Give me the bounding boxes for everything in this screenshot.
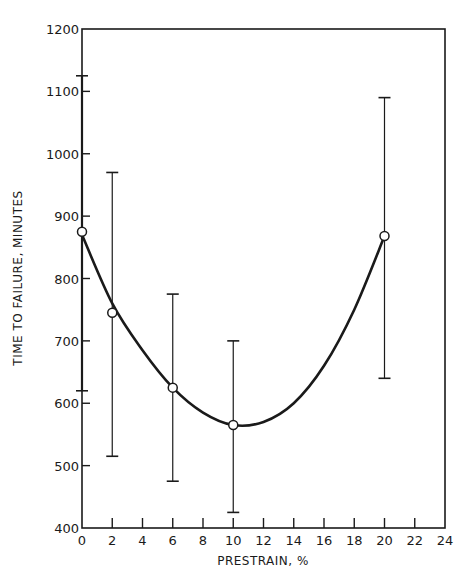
x-tick-label: 6 — [169, 533, 177, 548]
x-tick-label: 22 — [406, 533, 423, 548]
y-tick-label: 400 — [54, 521, 79, 536]
chart: 400500600700800900100011001200 024681012… — [0, 0, 467, 572]
y-tick-label: 500 — [54, 459, 79, 474]
plot-border — [82, 29, 445, 528]
y-tick-label: 1200 — [46, 22, 79, 37]
data-point-marker — [108, 308, 117, 317]
y-tick-label: 800 — [54, 272, 79, 287]
y-tick-label: 1100 — [46, 84, 79, 99]
x-tick-label: 14 — [285, 533, 302, 548]
y-tick-label: 600 — [54, 396, 79, 411]
error-bars — [76, 76, 391, 513]
x-tick-label: 10 — [225, 533, 242, 548]
y-tick-label: 1000 — [46, 147, 79, 162]
x-tick-label: 12 — [255, 533, 272, 548]
x-tick-label: 16 — [316, 533, 333, 548]
x-tick-label: 0 — [78, 533, 86, 548]
data-point-marker — [78, 227, 87, 236]
y-axis-title: TIME TO FAILURE, MINUTES — [11, 190, 25, 366]
x-axis: 024681012141618202224 — [78, 518, 453, 548]
y-axis: 400500600700800900100011001200 — [46, 22, 90, 536]
x-tick-label: 2 — [108, 533, 116, 548]
plot-frame — [82, 29, 445, 528]
x-tick-label: 4 — [138, 533, 146, 548]
x-tick-label: 8 — [199, 533, 207, 548]
data-point-marker — [380, 232, 389, 241]
x-tick-label: 20 — [376, 533, 393, 548]
x-axis-title: PRESTRAIN, % — [217, 554, 309, 568]
x-tick-label: 24 — [437, 533, 454, 548]
y-tick-label: 700 — [54, 334, 79, 349]
data-point-marker — [229, 421, 238, 430]
x-tick-label: 18 — [346, 533, 363, 548]
y-tick-label: 900 — [54, 209, 79, 224]
data-point-marker — [168, 383, 177, 392]
